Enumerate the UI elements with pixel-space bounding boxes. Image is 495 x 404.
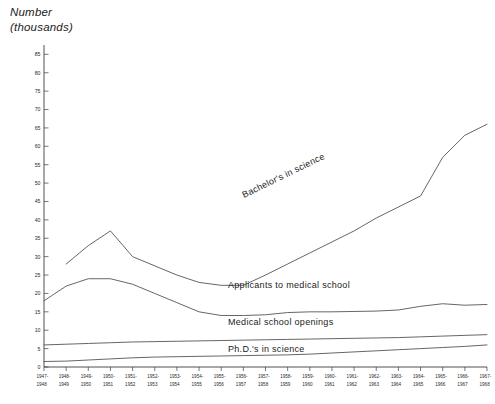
x-tick-label: 1962- — [369, 374, 381, 379]
y-tick-label: 5 — [38, 346, 41, 352]
x-tick-label: 1965 — [413, 382, 424, 387]
y-tick-label: 70 — [35, 106, 41, 112]
x-tick-label: 1947- — [37, 374, 49, 379]
x-tick-label: 1960 — [302, 382, 313, 387]
y-tick-label: 15 — [35, 309, 41, 315]
x-tick-label: 1954- — [192, 374, 204, 379]
x-tick-label: 1962 — [347, 382, 358, 387]
x-tick-label: 1948- — [59, 374, 71, 379]
y-tick-label: 75 — [35, 88, 41, 94]
series-label-medical-school-openings: Medical school openings — [228, 317, 334, 327]
x-tick-label: 1959- — [302, 374, 314, 379]
y-tick-label: 80 — [35, 70, 41, 76]
x-tick-label: 1956 — [214, 382, 225, 387]
y-tick-label: 40 — [35, 217, 41, 223]
y-tick-label: 20 — [35, 290, 41, 296]
x-tick-label: 1954 — [169, 382, 180, 387]
x-tick-label: 1956- — [236, 374, 248, 379]
x-tick-label: 1950- — [103, 374, 115, 379]
x-tick-label: 1957- — [258, 374, 270, 379]
x-tick-label: 1963- — [391, 374, 403, 379]
x-tick-label: 1967- — [480, 374, 492, 379]
x-axis: 1947-19481948-19491949-19501950-19511951… — [37, 367, 492, 387]
x-tick-label: 1951- — [125, 374, 137, 379]
x-tick-label: 1963 — [369, 382, 380, 387]
x-tick-label: 1961 — [324, 382, 335, 387]
series-line-bachelor-s-in-science — [66, 124, 487, 285]
series-labels: Bachelor's in scienceApplicants to medic… — [228, 151, 350, 354]
y-axis: 0510152025303540455055606570758085 — [35, 45, 49, 370]
x-tick-label: 1967 — [457, 382, 468, 387]
line-chart: Number (thousands) 051015202530354045505… — [0, 0, 495, 404]
x-tick-label: 1948 — [37, 382, 48, 387]
y-tick-label: 35 — [35, 235, 41, 241]
x-tick-label: 1964- — [413, 374, 425, 379]
x-tick-label: 1950 — [81, 382, 92, 387]
series-label-ph-d-s-in-science: Ph.D.'s in science — [228, 344, 305, 354]
y-tick-label: 45 — [35, 198, 41, 204]
y-tick-label: 25 — [35, 272, 41, 278]
x-tick-label: 1955- — [214, 374, 226, 379]
x-tick-label: 1955 — [192, 382, 203, 387]
x-tick-label: 1960- — [324, 374, 336, 379]
x-tick-label: 1953- — [169, 374, 181, 379]
x-tick-label: 1968 — [480, 382, 491, 387]
x-tick-label: 1957 — [236, 382, 247, 387]
x-tick-label: 1951 — [103, 382, 114, 387]
y-tick-label: 85 — [35, 51, 41, 57]
y-tick-label: 55 — [35, 162, 41, 168]
x-tick-label: 1959 — [280, 382, 291, 387]
x-tick-label: 1949- — [81, 374, 93, 379]
x-tick-label: 1966 — [435, 382, 446, 387]
series-label-applicants-to-medical-school: Applicants to medical school — [228, 280, 350, 290]
y-tick-label: 65 — [35, 125, 41, 131]
x-tick-label: 1958 — [258, 382, 269, 387]
y-tick-label: 30 — [35, 254, 41, 260]
x-tick-label: 1958- — [280, 374, 292, 379]
x-tick-label: 1952 — [125, 382, 136, 387]
y-tick-label: 60 — [35, 143, 41, 149]
y-tick-label: 10 — [35, 327, 41, 333]
x-tick-label: 1964 — [391, 382, 402, 387]
x-tick-label: 1966- — [457, 374, 469, 379]
series-label-bachelor-s-in-science: Bachelor's in science — [240, 151, 326, 200]
x-tick-label: 1949 — [59, 382, 70, 387]
y-tick-label: 0 — [38, 364, 41, 370]
y-tick-label: 50 — [35, 180, 41, 186]
x-tick-label: 1965- — [435, 374, 447, 379]
plot-area: 0510152025303540455055606570758085 1947-… — [0, 0, 495, 404]
x-tick-label: 1961- — [347, 374, 359, 379]
x-tick-label: 1952- — [147, 374, 159, 379]
x-tick-label: 1953 — [147, 382, 158, 387]
